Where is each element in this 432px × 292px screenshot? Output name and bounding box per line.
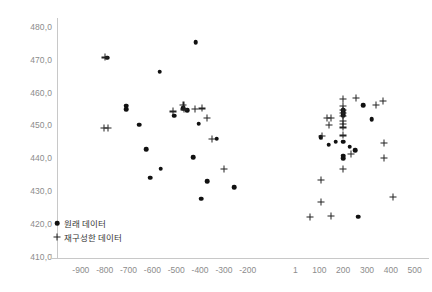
data-point-original: [148, 175, 153, 180]
chart-legend: 원래 데이터 재구성한 데이터: [52, 216, 122, 244]
x-tick-label: 200: [336, 265, 350, 275]
data-point-reconstructed: [327, 213, 334, 220]
legend-label-original: 원래 데이터: [64, 217, 106, 229]
x-tick-label: -600: [144, 265, 161, 275]
data-point-reconstructed: [381, 139, 388, 146]
data-point-original: [158, 166, 163, 171]
x-tick-label: -900: [72, 265, 89, 275]
data-point-reconstructed: [105, 124, 112, 131]
data-point-original: [197, 122, 202, 127]
x-tick-label: 300: [360, 265, 374, 275]
data-point-reconstructed: [209, 135, 216, 142]
x-tick-label: -800: [96, 265, 113, 275]
data-point-original: [361, 103, 366, 108]
x-tick-label: -500: [168, 265, 185, 275]
data-point-reconstructed: [198, 105, 205, 112]
x-tick-label: 400: [384, 265, 398, 275]
data-point-original: [356, 215, 361, 220]
x-axis-origin-tick: [51, 254, 52, 259]
x-tick-label: 500: [408, 265, 422, 275]
data-point-reconstructed: [340, 132, 347, 139]
data-point-original: [341, 156, 346, 161]
data-point-reconstructed: [220, 166, 227, 173]
plus-marker-icon: [52, 232, 64, 242]
legend-item-reconstructed: 재구성한 데이터: [52, 230, 122, 244]
data-point-reconstructed: [390, 193, 397, 200]
legend-item-original: 원래 데이터: [52, 216, 122, 230]
data-point-original: [193, 40, 198, 45]
data-point-original: [327, 143, 332, 148]
circle-marker-icon: [52, 218, 64, 228]
data-point-reconstructed: [169, 108, 176, 115]
data-point-original: [144, 147, 149, 152]
data-point-reconstructed: [340, 124, 347, 131]
data-point-reconstructed: [204, 114, 211, 121]
data-point-reconstructed: [347, 151, 354, 158]
data-point-original: [333, 139, 338, 144]
data-point-original: [137, 122, 142, 127]
data-point-original: [157, 69, 162, 74]
data-point-original: [369, 117, 374, 122]
data-point-reconstructed: [325, 121, 332, 128]
data-point-reconstructed: [373, 101, 380, 108]
data-point-original: [191, 155, 196, 160]
scatter-chart: 480,0470,0460,0450,0440,0430,0420,0410,0…: [0, 0, 432, 292]
data-point-reconstructed: [353, 94, 360, 101]
data-point-reconstructed: [306, 213, 313, 220]
data-point-reconstructed: [317, 176, 324, 183]
legend-label-reconstructed: 재구성한 데이터: [64, 231, 122, 243]
data-point-original: [341, 139, 346, 144]
data-point-original: [232, 185, 237, 190]
data-point-reconstructed: [381, 154, 388, 161]
x-tick-label: -700: [120, 265, 137, 275]
data-point-original: [205, 179, 210, 184]
data-point-original: [348, 144, 353, 149]
data-point-reconstructed: [380, 97, 387, 104]
x-tick-label: 100: [312, 265, 326, 275]
data-point-reconstructed: [101, 54, 108, 61]
x-tick-label: -200: [239, 265, 256, 275]
x-tick-label: 1: [293, 265, 298, 275]
data-point-original: [124, 107, 129, 112]
data-point-original: [199, 197, 204, 202]
data-point-reconstructed: [339, 95, 346, 102]
data-point-reconstructed: [340, 166, 347, 173]
data-point-reconstructed: [180, 106, 187, 113]
data-point-reconstructed: [318, 198, 325, 205]
x-tick-label: -300: [215, 265, 232, 275]
x-tick-label: -400: [192, 265, 209, 275]
data-point-reconstructed: [318, 132, 325, 139]
x-axis-line: [51, 258, 429, 259]
